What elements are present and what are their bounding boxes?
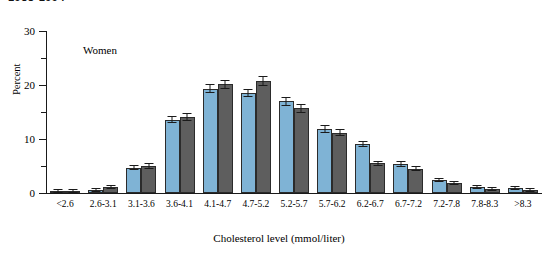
error-bar (362, 141, 363, 147)
bar-group (428, 31, 466, 193)
error-bar (324, 125, 325, 133)
bar-with-error (126, 31, 141, 193)
bar-group (275, 31, 313, 193)
bar-group (84, 31, 122, 193)
bar-series-dark-gray (294, 108, 309, 193)
error-bar (210, 84, 211, 93)
bar-with-error (447, 31, 462, 193)
bar-group (313, 31, 351, 193)
error-bar (377, 161, 378, 166)
bar-group (199, 31, 237, 193)
bar-series-dark-gray (332, 133, 347, 193)
error-bar (477, 185, 478, 189)
bar-with-error (370, 31, 385, 193)
chart-figure: 1988-1994 Women Percent 0102030 <2.62.6-… (0, 0, 558, 261)
bar-series-light-blue (203, 89, 218, 193)
bar-with-error (165, 31, 180, 193)
x-tick-label: 7.8-8.3 (471, 199, 498, 209)
error-bar (57, 189, 58, 193)
plot-area (46, 31, 542, 193)
error-bar (263, 76, 264, 86)
bar-group (46, 31, 84, 193)
y-tick-label: 0 (0, 188, 35, 199)
y-tick-major (39, 31, 46, 32)
bar-with-error (241, 31, 256, 193)
error-bar (515, 186, 516, 190)
y-tick-major (39, 193, 46, 194)
y-tick-label: 30 (0, 26, 35, 37)
bar-with-error (180, 31, 195, 193)
bar-with-error (256, 31, 271, 193)
error-bar (248, 89, 249, 98)
bar-group (237, 31, 275, 193)
x-axis-line (46, 193, 542, 194)
bar-group (466, 31, 504, 193)
x-tick-label: 7.2-7.8 (433, 199, 460, 209)
error-bar (530, 188, 531, 192)
x-tick-label: 4.1-4.7 (204, 199, 231, 209)
bar-with-error (355, 31, 370, 193)
bar-with-error (523, 31, 538, 193)
bar-with-error (218, 31, 233, 193)
bar-group (160, 31, 198, 193)
bar-series-dark-gray (218, 84, 233, 193)
bar-with-error (408, 31, 423, 193)
bar-series-light-blue (355, 144, 370, 193)
x-tick-label: <2.6 (56, 199, 73, 209)
error-bar (286, 97, 287, 106)
bar-group (122, 31, 160, 193)
bar-series-light-blue (317, 129, 332, 193)
bar-with-error (103, 31, 118, 193)
x-tick-label: 4.7-5.2 (242, 199, 269, 209)
x-tick-label: 6.7-7.2 (395, 199, 422, 209)
bar-with-error (203, 31, 218, 193)
y-tick-major (39, 85, 46, 86)
bar-group (389, 31, 427, 193)
y-tick-label: 20 (0, 80, 35, 91)
bar-series-dark-gray (141, 166, 156, 193)
error-bar (187, 113, 188, 121)
bar-series-dark-gray (256, 81, 271, 193)
clipped-header-text: 1988-1994 (8, 0, 65, 3)
error-bar (110, 185, 111, 189)
bar-series-light-blue (393, 164, 408, 193)
bar-group (504, 31, 542, 193)
bar-with-error (470, 31, 485, 193)
error-bar (454, 181, 455, 185)
error-bar (415, 166, 416, 171)
bar-with-error (279, 31, 294, 193)
x-tick-label: 6.2-6.7 (357, 199, 384, 209)
error-bar (172, 116, 173, 124)
error-bar (339, 129, 340, 137)
error-bar (148, 163, 149, 168)
error-bar (301, 104, 302, 113)
bar-with-error (88, 31, 103, 193)
error-bar (95, 188, 96, 192)
bar-with-error (317, 31, 332, 193)
error-bar (225, 80, 226, 89)
bar-with-error (50, 31, 65, 193)
bar-with-error (141, 31, 156, 193)
bar-with-error (332, 31, 347, 193)
bar-with-error (485, 31, 500, 193)
bar-series-light-blue (241, 93, 256, 193)
y-tick-major (39, 139, 46, 140)
bar-series-dark-gray (408, 169, 423, 193)
bar-series-dark-gray (370, 163, 385, 193)
x-tick-label: 2.6-3.1 (90, 199, 117, 209)
error-bar (72, 189, 73, 193)
bar-series-dark-gray (180, 117, 195, 193)
error-bar (439, 178, 440, 182)
x-tick-label: 3.6-4.1 (166, 199, 193, 209)
bar-with-error (508, 31, 523, 193)
error-bar (400, 161, 401, 166)
bar-with-error (432, 31, 447, 193)
bar-series-light-blue (165, 120, 180, 193)
x-tick-label: 5.7-6.2 (319, 199, 346, 209)
x-axis-label: Cholesterol level (mmol/liter) (0, 232, 558, 244)
x-tick-label: >8.3 (514, 199, 531, 209)
bar-group (351, 31, 389, 193)
bar-with-error (393, 31, 408, 193)
bar-with-error (294, 31, 309, 193)
x-tick-label: 3.1-3.6 (128, 199, 155, 209)
